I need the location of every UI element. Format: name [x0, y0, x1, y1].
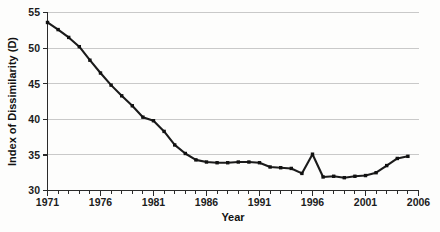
data-point-marker	[279, 166, 282, 169]
data-line	[48, 22, 408, 177]
x-tick-label: 2006	[407, 196, 431, 208]
data-series-group	[46, 21, 410, 180]
chart-figure: 19711976198119861991199620012006 3035404…	[0, 0, 440, 232]
x-tick-label: 1971	[36, 196, 60, 208]
data-point-marker	[364, 174, 367, 177]
data-point-marker	[396, 157, 399, 160]
gridlines-group	[48, 13, 419, 155]
data-point-marker	[268, 165, 271, 168]
data-point-marker	[184, 152, 187, 155]
y-tick-label: 55	[28, 6, 40, 18]
data-point-marker	[311, 152, 314, 155]
x-tick-label: 1976	[89, 196, 113, 208]
data-point-marker	[406, 155, 409, 158]
y-tick-labels-group: 303540455055	[28, 6, 40, 196]
data-point-marker	[247, 160, 250, 163]
data-point-marker	[99, 71, 102, 74]
data-point-marker	[226, 161, 229, 164]
data-point-marker	[88, 59, 91, 62]
y-tick-label: 45	[28, 78, 40, 90]
x-tick-label: 1981	[142, 196, 166, 208]
y-tick-label: 50	[28, 42, 40, 54]
x-tick-label: 1986	[195, 196, 219, 208]
data-point-marker	[194, 158, 197, 161]
data-point-marker	[215, 161, 218, 164]
data-point-marker	[120, 94, 123, 97]
data-point-marker	[385, 164, 388, 167]
data-point-marker	[374, 171, 377, 174]
x-tick-label: 1996	[301, 196, 325, 208]
y-tick-label: 40	[28, 113, 40, 125]
y-tick-marks-group	[43, 13, 48, 191]
x-tick-labels-group: 19711976198119861991199620012006	[36, 196, 431, 208]
data-point-marker	[205, 160, 208, 163]
data-point-marker	[332, 175, 335, 178]
data-point-marker	[237, 160, 240, 163]
x-axis-title: Year	[221, 211, 245, 223]
data-point-marker	[78, 45, 81, 48]
data-point-marker	[152, 119, 155, 122]
y-tick-label: 35	[28, 149, 40, 161]
data-point-marker	[343, 176, 346, 179]
data-point-marker	[353, 175, 356, 178]
data-point-marker	[173, 143, 176, 146]
y-axis-title: Index of Dissimilarity (D)	[6, 37, 18, 166]
data-point-marker	[109, 83, 112, 86]
line-chart: 19711976198119861991199620012006 3035404…	[0, 0, 440, 232]
data-point-marker	[56, 28, 59, 31]
data-point-marker	[46, 21, 49, 24]
x-tick-label: 1991	[248, 196, 272, 208]
data-point-marker	[141, 115, 144, 118]
y-tick-label: 30	[28, 184, 40, 196]
data-point-marker	[67, 36, 70, 39]
data-point-marker	[162, 130, 165, 133]
axes-group	[48, 13, 419, 191]
data-point-marker	[258, 161, 261, 164]
x-tick-label: 2001	[354, 196, 378, 208]
data-point-marker	[131, 104, 134, 107]
data-point-marker	[300, 172, 303, 175]
data-point-marker	[290, 167, 293, 170]
data-point-marker	[321, 175, 324, 178]
